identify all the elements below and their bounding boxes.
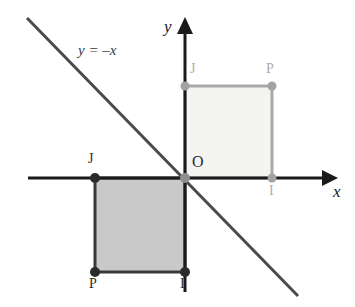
- vertex-dot-upper-p: [268, 82, 277, 91]
- source-square-shape: [95, 178, 185, 272]
- vertex-label-lower-p: P: [89, 277, 97, 291]
- vertex-label-upper-i: I: [269, 184, 274, 198]
- y-axis-arrowhead: [177, 17, 193, 34]
- line-equation-label: y = –x: [78, 43, 116, 58]
- vertex-dot-upper-j: [181, 82, 190, 91]
- vertex-dot-lower-j: [90, 173, 100, 183]
- vertex-label-upper-p: P: [266, 62, 274, 76]
- vertex-dot-origin: [180, 173, 190, 183]
- vertex-label-lower-j: J: [88, 152, 93, 166]
- vertex-label-upper-j: J: [190, 62, 195, 76]
- y-axis-label: y: [164, 18, 172, 35]
- figure-canvas: [0, 0, 355, 307]
- geometry-figure: y x O y = –x J P I J P I: [0, 0, 355, 307]
- origin-label: O: [192, 154, 204, 170]
- x-axis-label: x: [333, 183, 341, 200]
- vertex-dot-upper-i: [268, 174, 277, 183]
- vertex-label-lower-i: I: [180, 277, 185, 291]
